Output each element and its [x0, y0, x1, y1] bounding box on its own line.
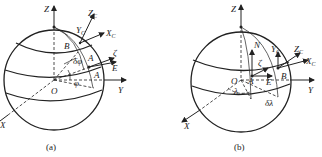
label-a-b: A [247, 76, 254, 86]
label-delta-phi: δφ [73, 56, 82, 66]
label-origin-a: O [51, 86, 58, 96]
label-b-a: B [64, 41, 70, 51]
label-delta-lambda: δλ [265, 98, 273, 108]
label-phi: φ [74, 78, 79, 88]
x-axis-dashed-a [8, 80, 54, 115]
label-b-b: B [281, 71, 287, 81]
caption-a: (a) [46, 142, 56, 152]
label-a-lower: A [93, 70, 100, 80]
latitude-middle-a [5, 67, 101, 77]
label-z-a: Z [44, 4, 50, 14]
radius-a-to-point [54, 67, 90, 80]
zc-axis-a [80, 14, 94, 43]
label-x-a: X [0, 120, 6, 130]
label-e-b: E [265, 77, 272, 87]
label-xc-b: XC [305, 56, 317, 67]
label-zeta-b: ζ [258, 58, 263, 68]
pole-point-b [240, 26, 243, 29]
label-zc-a: ZC [88, 8, 98, 19]
label-lambda: λ [233, 86, 238, 96]
label-yc-a: YC [76, 25, 86, 36]
label-n-b: N [253, 40, 261, 50]
label-zeta-a: ζ [113, 48, 118, 58]
panel-a: Z Y X ZC YC XC ζ E O A A B φ δφ (a) [0, 4, 126, 152]
label-y-b: Y [308, 85, 314, 95]
label-origin-b: O [231, 76, 238, 86]
label-xc-a: XC [105, 28, 117, 39]
label-x-b: X [183, 121, 190, 131]
panel-b: Z Y X ZC YC XC N ζ E O A B λ δλ (b) [182, 4, 317, 152]
zc-axis-b [278, 53, 300, 68]
label-z-b: Z [231, 4, 237, 14]
label-e-a: E [111, 63, 118, 73]
label-a-upper: A [87, 53, 94, 63]
meridian-n-b [241, 27, 251, 99]
label-zc-b: ZC [294, 44, 304, 55]
figure-canvas: Z Y X ZC YC XC ζ E O A A B φ δφ (a) [0, 0, 322, 157]
pole-point-a [53, 26, 56, 29]
label-yc-b: YC [271, 44, 281, 55]
latitude-lower-b [192, 84, 290, 95]
label-y-a: Y [118, 85, 124, 95]
caption-b: (b) [234, 142, 245, 152]
